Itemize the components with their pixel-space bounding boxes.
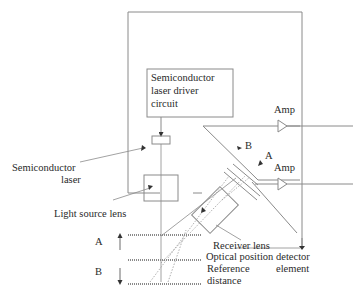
psd-a-arrow-icon [258, 160, 263, 166]
lens-pointer-icon [148, 185, 153, 190]
driver-line-2: laser driver [151, 84, 231, 97]
psd-b-arrow-icon [237, 146, 242, 150]
label-reference-line1: Reference [207, 263, 250, 275]
semiconductor-laser [152, 136, 170, 144]
sensor-housing [128, 12, 302, 248]
laser-pointer-icon [141, 145, 146, 151]
label-target-a: A [95, 236, 103, 248]
label-semiconductor-laser-line2: laser [61, 174, 81, 186]
driver-line-3: circuit [151, 97, 231, 110]
target-displacement-arrows [118, 233, 123, 285]
label-psd-a: A [265, 150, 273, 162]
label-optical-psd-line2: element [276, 263, 309, 275]
receiver-pointer-icon [201, 207, 206, 213]
label-optical-psd-line1: Optical position detector [206, 251, 310, 263]
label-amp-bottom: Amp [274, 162, 295, 174]
target-surfaces [128, 235, 202, 284]
label-amp-top: Amp [274, 104, 295, 116]
driver-line-1: Semiconductor [151, 71, 231, 84]
label-reference-line2: distance [207, 275, 241, 287]
laser-driver-label: Semiconductor laser driver circuit [151, 71, 231, 110]
label-light-source-lens: Light source lens [54, 208, 126, 220]
psd-element [224, 164, 260, 200]
amp-top-icon [278, 120, 287, 132]
sensor-diagram [0, 0, 353, 294]
label-target-b: B [95, 266, 102, 278]
receiver-lens [192, 187, 239, 234]
label-psd-b: B [245, 140, 252, 152]
label-semiconductor-laser-line1: Semiconductor [12, 162, 76, 174]
